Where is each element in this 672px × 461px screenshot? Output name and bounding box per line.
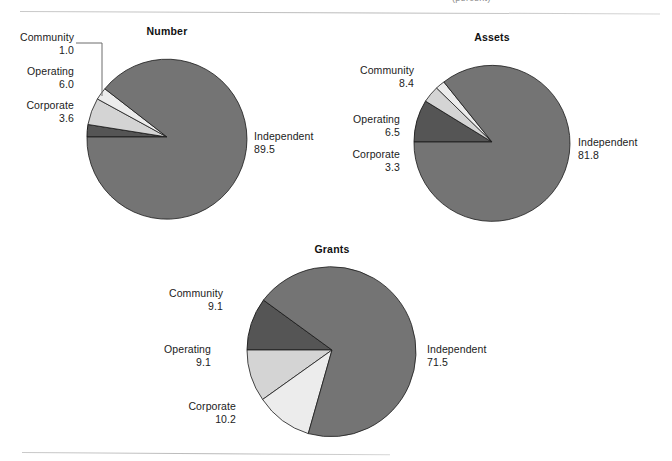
label-corporate-number-value: 3.6 [0, 112, 74, 125]
label-corporate-assets-name: Corporate [352, 148, 400, 160]
label-operating-number-name: Operating [27, 65, 74, 77]
label-operating-grants: Operating 9.1 [125, 343, 211, 368]
label-independent-number-name: Independent [254, 130, 314, 142]
label-community-grants: Community 9.1 [125, 287, 223, 312]
label-community-number-value: 1.0 [0, 44, 74, 57]
pie-chart-assets: Assets Community 8.4 Operating 6.5 Corpo… [340, 0, 672, 235]
pie-chart-figure: (percent) Number Community 1.0 Operating… [0, 0, 672, 461]
label-corporate-grants: Corporate 10.2 [138, 400, 236, 425]
label-independent-grants-name: Independent [427, 343, 487, 355]
label-independent-number-value: 89.5 [254, 143, 314, 156]
label-independent-grants: Independent 71.5 [427, 343, 487, 368]
label-corporate-grants-value: 10.2 [138, 413, 236, 426]
label-independent-assets: Independent 81.8 [578, 136, 638, 161]
label-independent-number: Independent 89.5 [254, 130, 314, 155]
label-corporate-assets-value: 3.3 [328, 161, 400, 174]
label-corporate-number-name: Corporate [26, 99, 74, 111]
label-community-number-name: Community [20, 31, 74, 43]
label-operating-number: Operating 6.0 [0, 65, 74, 90]
slice-group-grants [247, 267, 416, 437]
pie-slice-independent-number [87, 59, 247, 219]
label-community-grants-name: Community [169, 287, 223, 299]
label-community-assets-name: Community [360, 64, 414, 76]
leader-line-community-number [76, 43, 102, 96]
pie-chart-number: Number Community 1.0 Operating 6.0 Corpo… [0, 0, 340, 230]
label-independent-grants-value: 71.5 [427, 356, 487, 369]
label-community-assets: Community 8.4 [328, 64, 414, 89]
label-operating-assets-name: Operating [353, 113, 400, 125]
label-operating-assets-value: 6.5 [328, 126, 400, 139]
label-operating-assets: Operating 6.5 [328, 113, 400, 138]
label-independent-assets-value: 81.8 [578, 149, 638, 162]
pie-chart-grants: Grants Community 9.1 Operating 9.1 Corpo… [150, 230, 550, 455]
label-corporate-grants-name: Corporate [188, 400, 236, 412]
label-corporate-assets: Corporate 3.3 [328, 148, 400, 173]
label-community-grants-value: 9.1 [125, 300, 223, 313]
label-independent-assets-name: Independent [578, 136, 638, 148]
label-operating-grants-value: 9.1 [125, 356, 211, 369]
label-operating-number-value: 6.0 [0, 78, 74, 91]
label-community-number: Community 1.0 [0, 31, 74, 56]
label-corporate-number: Corporate 3.6 [0, 99, 74, 124]
slice-group-assets [414, 65, 570, 221]
slice-group-number [87, 59, 247, 219]
label-community-assets-value: 8.4 [328, 77, 414, 90]
label-operating-grants-name: Operating [164, 343, 211, 355]
